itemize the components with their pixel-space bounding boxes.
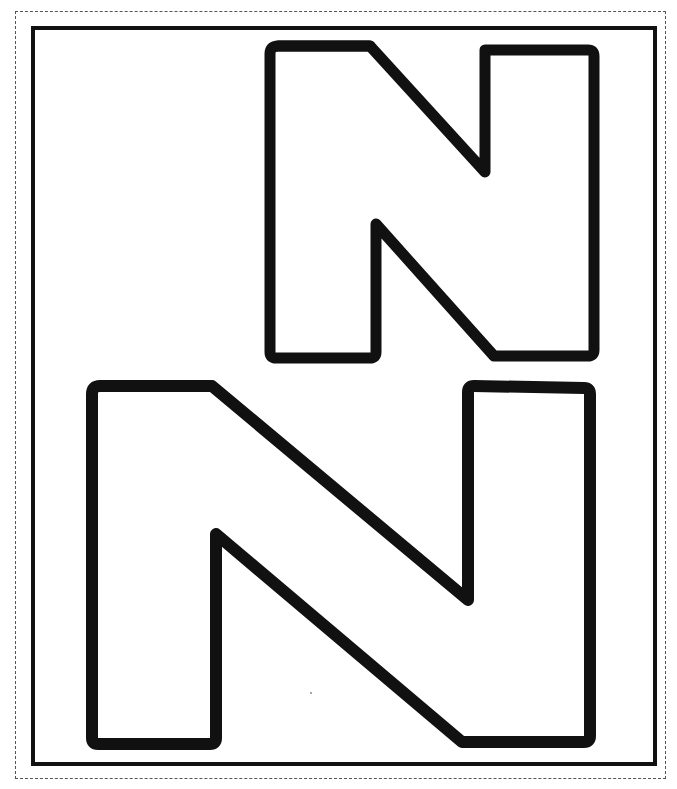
letter-n-bottom-outline <box>92 386 590 744</box>
paper-speck <box>310 692 312 694</box>
letter-n-top-outline <box>270 46 594 358</box>
coloring-page <box>0 0 677 789</box>
letters-canvas <box>0 0 677 789</box>
